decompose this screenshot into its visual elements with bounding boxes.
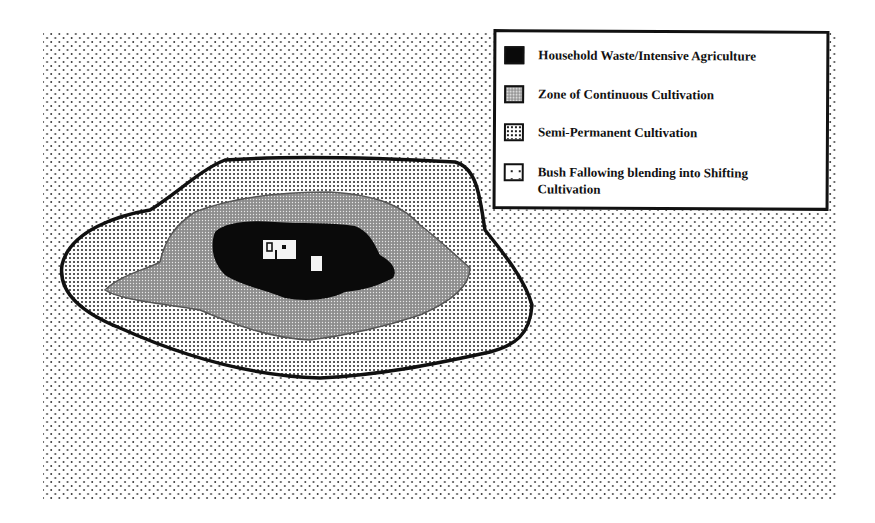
medium-dots-swatch-icon <box>504 123 524 141</box>
legend-label: Semi-Permanent Cultivation <box>538 123 808 141</box>
legend-label: Bush Fallowing blending into Shifting Cu… <box>538 163 808 198</box>
legend-item-continuous-cultivation: Zone of Continuous Cultivation <box>504 85 808 105</box>
dense-stipple-swatch-icon <box>504 85 524 103</box>
sparse-dots-swatch-icon <box>504 163 524 181</box>
legend-item-bush-fallowing: Bush Fallowing blending into Shifting Cu… <box>504 163 808 199</box>
legend-item-semi-permanent: Semi-Permanent Cultivation <box>504 123 808 143</box>
building-window <box>282 245 286 249</box>
legend-item-household-waste: Household Waste/Intensive Agriculture <box>504 46 808 66</box>
legend-label: Household Waste/Intensive Agriculture <box>538 46 808 64</box>
legend-label: Zone of Continuous Cultivation <box>538 85 808 103</box>
legend: Household Waste/Intensive Agriculture Zo… <box>493 29 830 211</box>
building <box>311 256 322 271</box>
solid-black-swatch-icon <box>504 46 524 64</box>
building-post <box>275 250 277 259</box>
